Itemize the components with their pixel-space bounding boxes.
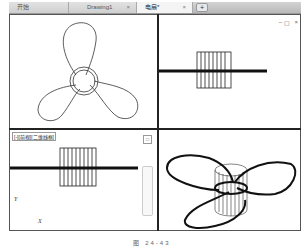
tab-label: 电扇* [145,4,159,10]
viewport-bottom-left[interactable]: [-][前视][二维线框] □ Y X [10,130,157,230]
tab-drawing1[interactable]: Drawing1 × [69,2,137,13]
tab-start[interactable]: 开始 [9,2,69,13]
viewport-controls-label[interactable]: [-][前视][二维线框] [12,132,56,141]
viewport-top-right[interactable]: – ▢ × [159,15,300,128]
navigation-bar[interactable] [142,166,153,216]
fan-top-view-drawing [10,15,157,128]
restore-icon[interactable]: ▢ [284,19,290,26]
view-cube-icon[interactable]: □ [143,135,152,144]
fan-isometric-drawing [159,130,300,230]
viewport-top-left[interactable] [10,15,157,128]
document-tab-bar: 开始 Drawing1 × 电扇* × + [9,2,301,14]
minimize-icon[interactable]: – [279,19,282,25]
viewport-divider-vertical[interactable] [157,14,159,231]
close-icon[interactable]: × [294,19,298,25]
new-tab-button[interactable]: + [196,3,208,12]
tab-label: Drawing1 [87,4,112,10]
close-icon[interactable]: × [126,2,130,13]
ucs-x-label: X [38,218,42,224]
viewport-bottom-right[interactable] [159,130,300,230]
figure-caption: 图 24-43 [0,238,304,247]
viewport-divider-horizontal[interactable] [9,128,301,130]
tab-fan[interactable]: 电扇* × [137,2,193,13]
close-icon[interactable]: × [182,2,186,13]
fan-front-wireframe-drawing [10,130,157,230]
tab-label: 开始 [17,4,29,10]
ucs-y-label: Y [14,196,17,202]
fan-front-view-drawing [159,15,300,128]
